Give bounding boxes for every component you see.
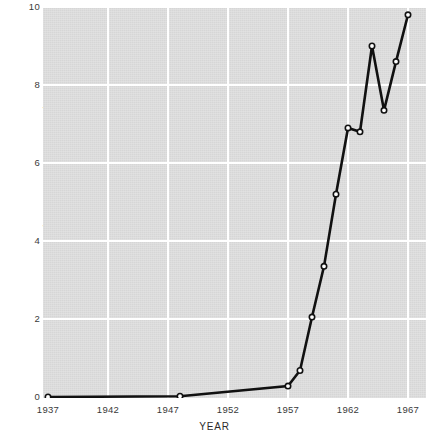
data-point-marker	[381, 108, 386, 113]
x-axis-tick-label: 1942	[88, 404, 128, 415]
data-point-marker	[45, 394, 50, 398]
vertical-gridlines	[108, 6, 408, 398]
x-axis-tick-label: 1957	[268, 404, 308, 415]
data-point-marker	[177, 394, 182, 398]
x-axis-title: YEAR	[0, 421, 429, 432]
chart-figure: LIVE WEIGHT (MILLION METRIC TONS) 024681…	[0, 0, 429, 439]
y-axis-tick-labels: 0246810	[0, 0, 40, 439]
plot-area	[43, 6, 426, 398]
data-point-marker	[285, 383, 290, 388]
y-axis-tick-label: 6	[4, 157, 40, 168]
horizontal-gridlines	[43, 7, 426, 319]
data-point-marker	[357, 129, 362, 134]
data-point-marker	[321, 264, 326, 269]
x-axis-tick-label: 1962	[328, 404, 368, 415]
x-axis-tick-label: 1967	[388, 404, 428, 415]
x-axis-tick-label: 1937	[28, 404, 68, 415]
x-axis-tick-label: 1952	[208, 404, 248, 415]
data-point-marker	[369, 43, 374, 48]
data-point-marker	[393, 59, 398, 64]
plot-canvas	[43, 6, 426, 398]
x-axis-tick-label: 1947	[148, 404, 188, 415]
y-axis-tick-label: 2	[4, 313, 40, 324]
data-point-marker	[345, 125, 350, 130]
y-axis-tick-label: 8	[4, 79, 40, 90]
data-point-marker	[297, 368, 302, 373]
y-axis-tick-label: 0	[4, 391, 40, 402]
data-point-marker	[333, 192, 338, 197]
data-point-marker	[309, 314, 314, 319]
y-axis-tick-label: 4	[4, 235, 40, 246]
y-axis-tick-label: 10	[4, 1, 40, 12]
data-point-marker	[405, 12, 410, 17]
